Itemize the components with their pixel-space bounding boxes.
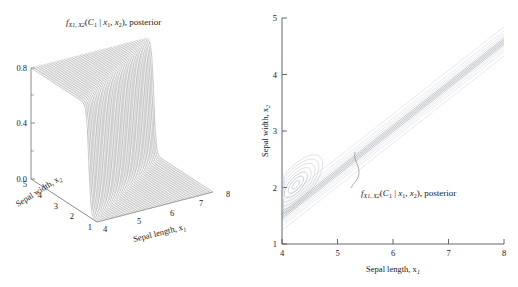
contour-x-tick-5: 5 <box>335 248 339 258</box>
ann-f-sub: X1, X2 <box>363 193 380 199</box>
x-tick-7: 7 <box>199 198 203 208</box>
z-tick-0: 0.8 <box>16 63 27 73</box>
contour-lines <box>282 27 504 231</box>
contour-y-axis-label-text: Sepal width, x <box>260 107 270 157</box>
contour-y-tick-5: 5 <box>273 13 277 23</box>
contour-x-ticks: 4 5 6 7 8 <box>280 248 506 258</box>
contour-x-tick-8: 8 <box>502 248 506 258</box>
contour-x-tick-4: 4 <box>280 248 285 258</box>
contour-plot-svg: fX1, X2(C1 | x1, x2), posterior 1 2 3 4 … <box>259 0 518 287</box>
contour-x-tick-7: 7 <box>446 248 450 258</box>
contour-y-ticks: 1 2 3 4 5 <box>273 13 278 249</box>
contour-y-tick-4: 4 <box>273 70 278 80</box>
title-f-sub: X1, X2 <box>68 22 85 28</box>
contour-y-tick-3: 3 <box>273 126 277 136</box>
surface-mesh <box>31 38 213 222</box>
contour-x-axis-label-text: Sepal length, x <box>366 264 418 274</box>
x-tick-5: 5 <box>137 216 141 226</box>
surface-plot-svg: fX1, X2(C1 | x1, x2), posterior 0.8 0.4 … <box>0 0 259 287</box>
surface-x-axis-label-sub: 1 <box>183 226 187 233</box>
contour-axes <box>282 18 504 244</box>
contour-panel: fX1, X2(C1 | x1, x2), posterior 1 2 3 4 … <box>259 0 518 287</box>
contour-x-axis-label: Sepal length, x1 <box>366 264 420 275</box>
contour-annotation: fX1, X2(C1 | x1, x2), posterior <box>361 188 456 199</box>
y-tick-3: 3 <box>54 201 58 211</box>
x-tick-8: 8 <box>226 189 230 199</box>
surface-panel: fX1, X2(C1 | x1, x2), posterior 0.8 0.4 … <box>0 0 259 287</box>
contour-x-axis-label-sub: 1 <box>417 269 420 275</box>
y-tick-5: 5 <box>23 179 27 189</box>
contour-x-tick-6: 6 <box>391 248 395 258</box>
x-tick-6: 6 <box>170 208 174 218</box>
z-tick-1: 0.4 <box>16 118 27 128</box>
y-tick-1: 1 <box>88 222 92 232</box>
title-close: ), posterior <box>122 17 162 27</box>
surface-plot-title: fX1, X2(C1 | x1, x2), posterior <box>66 17 161 28</box>
contour-y-tick-1: 1 <box>273 239 277 249</box>
y-tick-2: 2 <box>70 211 74 221</box>
x-tick-4: 4 <box>103 224 108 234</box>
figure-root: fX1, X2(C1 | x1, x2), posterior 0.8 0.4 … <box>0 0 518 287</box>
contour-y-axis-label-sub: 2 <box>265 105 271 108</box>
contour-y-tick-2: 2 <box>273 183 277 193</box>
z-axis: 0.8 0.4 0.0 <box>16 63 35 184</box>
contour-y-axis-label: Sepal width, x2 <box>260 105 271 157</box>
ann-close: ), posterior <box>417 188 457 198</box>
